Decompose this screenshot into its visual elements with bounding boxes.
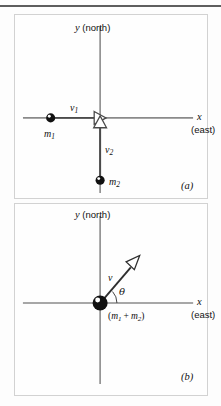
panel-b-caption: (b) [181, 372, 193, 383]
y-axis-label-a: y (north) [75, 23, 110, 34]
x-symbol-a: x [197, 111, 202, 122]
ball-combined [93, 295, 108, 310]
ball-m1 [46, 113, 55, 122]
label-v: v [108, 273, 112, 283]
x-text-a: (east) [191, 124, 215, 135]
m2-subscript: 2 [116, 180, 120, 189]
panel-a-graphics [15, 15, 207, 198]
header-rule [0, 5, 221, 7]
combined-plus: + [122, 311, 131, 321]
x-axis-direction-a: (east) [191, 125, 215, 135]
angle-arc-theta [113, 292, 117, 303]
panel-a: y (north) x (east) v1 m1 v2 m2 (a) [14, 14, 208, 199]
panel-a-caption: (a) [181, 181, 193, 192]
y-symbol-b: y [75, 209, 80, 220]
label-combined-mass: (m1+m2) [108, 312, 144, 323]
vector-v-arrowhead [126, 255, 140, 269]
y-axis-label-b: y (north) [75, 210, 110, 221]
ball-combined-highlight [95, 298, 100, 303]
combined-m2: m [131, 311, 138, 321]
x-axis-label-a: x [197, 112, 202, 123]
ball-m2-highlight [97, 177, 100, 180]
x-axis-direction-b: (east) [191, 310, 215, 320]
label-v2: v2 [105, 145, 113, 156]
v1-subscript: 1 [74, 106, 78, 115]
y-text-a: (north) [82, 22, 110, 33]
panel-b: y (north) x (east) v θ (m1+m2) (b) [14, 203, 208, 396]
y-symbol-a: y [75, 22, 80, 33]
v-symbol: v [108, 272, 112, 283]
ball-m1-highlight [48, 115, 51, 118]
label-theta: θ [119, 287, 125, 297]
panel-b-graphics [15, 204, 207, 395]
label-v1: v1 [70, 103, 78, 114]
v2-subscript: 2 [109, 148, 113, 157]
label-m2: m2 [109, 177, 120, 188]
x-symbol-b: x [197, 296, 202, 307]
x-text-b: (east) [191, 309, 215, 320]
combined-close-paren: ) [141, 311, 144, 321]
x-axis-label-b: x [197, 297, 202, 308]
label-m1: m1 [44, 129, 55, 140]
figure-container: y (north) x (east) v1 m1 v2 m2 (a) [0, 0, 221, 406]
vector-v-shaft [102, 267, 131, 301]
m1-subscript: 1 [51, 132, 55, 141]
ball-m2 [96, 176, 105, 185]
y-text-b: (north) [82, 209, 110, 220]
